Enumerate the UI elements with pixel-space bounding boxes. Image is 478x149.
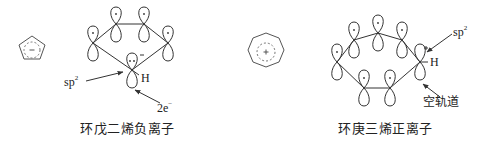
right-hybrid-label: sp2	[453, 26, 467, 38]
right-hydrogen-label: H	[430, 56, 439, 68]
left-electrons-label: 2e−	[157, 102, 172, 114]
left-caption: 环戊二烯负离子	[80, 122, 175, 135]
left-hybrid-label: sp2	[64, 76, 78, 88]
pentagon-ring-icon	[19, 36, 45, 59]
left-hydrogen-label: H	[141, 72, 150, 84]
right-empty-orbital-label: 空轨道	[423, 96, 459, 108]
right-caption: 环庚三烯正离子	[338, 122, 433, 135]
cyclopentadienyl-orbital-diagram	[86, 7, 173, 103]
heptagon-ring-icon	[248, 33, 284, 67]
